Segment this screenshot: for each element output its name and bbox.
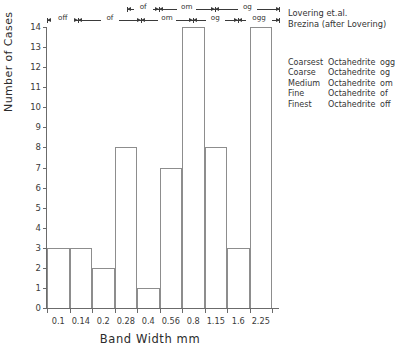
source-citations: Lovering et.al. Brezina (after Lovering) [288, 8, 386, 30]
histogram-figure: ofomog offofomogogg Lovering et.al. Brez… [0, 0, 410, 360]
x-tick-label: 1.6 [232, 317, 245, 326]
scale-segment-label: om [181, 3, 192, 11]
x-tick [137, 308, 138, 313]
scale-segment-label: off [58, 14, 67, 22]
x-tick [227, 308, 228, 313]
classification-type: Octahedrite [328, 68, 380, 78]
classification-grade: Coarse [288, 68, 328, 78]
y-tick-label: 14 [30, 23, 41, 32]
histogram-bar [92, 268, 115, 308]
classification-legend: CoarsestOctahedriteoggCoarseOctahedriteo… [288, 58, 402, 110]
x-tick-label: 1.15 [207, 317, 225, 326]
classification-grade: Medium [288, 79, 328, 89]
histogram-bar [250, 27, 273, 308]
histogram-bar [47, 248, 70, 308]
classification-type: Octahedrite [328, 100, 380, 110]
classification-grade: Fine [288, 89, 328, 99]
x-tick [182, 308, 183, 313]
x-tick-label: 0.28 [117, 317, 135, 326]
histogram-bar [227, 248, 250, 308]
scale-segment-label: of [106, 14, 113, 22]
histogram-bar [137, 288, 160, 308]
x-tick-label: 2.25 [252, 317, 270, 326]
source-line-1: Lovering et.al. [288, 8, 386, 19]
y-tick-label: 3 [36, 244, 41, 253]
x-tick [70, 308, 71, 313]
scale-segment-cap [47, 18, 48, 23]
classification-code: of [380, 89, 402, 99]
histogram-bar [205, 147, 228, 308]
x-tick-label: 0.8 [187, 317, 200, 326]
y-tick [43, 47, 47, 48]
y-tick [43, 208, 47, 209]
x-tick-label: 0.1 [52, 317, 65, 326]
y-tick [43, 67, 47, 68]
scale-segment-label: ogg [252, 14, 266, 22]
x-tick [115, 308, 116, 313]
y-tick-label: 12 [30, 63, 41, 72]
scale-segment-cap [78, 18, 79, 23]
y-tick [43, 188, 47, 189]
y-tick-label: 10 [30, 103, 41, 112]
scale-segment-cap [193, 18, 194, 23]
y-tick [43, 168, 47, 169]
y-tick-label: 2 [36, 264, 41, 273]
classification-code: og [380, 68, 402, 78]
classification-grade: Finest [288, 100, 328, 110]
y-tick-label: 7 [36, 164, 41, 173]
y-tick [43, 127, 47, 128]
y-tick [43, 87, 47, 88]
y-tick-label: 11 [30, 83, 41, 92]
scale-segment-label: of [140, 3, 147, 11]
scale-segment-cap [279, 7, 280, 12]
classification-row: FinestOctahedriteoff [288, 100, 402, 110]
y-tick-label: 4 [36, 224, 41, 233]
x-tick [205, 308, 206, 313]
scale-segment-cap [127, 7, 128, 12]
y-tick-label: 1 [36, 284, 41, 293]
x-tick [47, 308, 48, 313]
classification-code: off [380, 100, 402, 110]
classification-type: Octahedrite [328, 79, 380, 89]
source-line-2: Brezina (after Lovering) [288, 19, 386, 30]
classification-row: CoarsestOctahedriteogg [288, 58, 402, 68]
scale-segment-cap [159, 7, 160, 12]
scale-segment-label: og [243, 3, 252, 11]
y-tick-label: 6 [36, 184, 41, 193]
classification-type: Octahedrite [328, 58, 380, 68]
classification-code: om [380, 79, 402, 89]
classification-row: MediumOctahedriteom [288, 79, 402, 89]
histogram-bar [160, 168, 183, 309]
y-axis-title: Number of Cases [2, 12, 15, 112]
x-axis-title: Band Width mm [0, 332, 300, 346]
scale-segment-cap [141, 18, 142, 23]
x-tick-label: 0.4 [142, 317, 155, 326]
classification-row: FineOctahedriteof [288, 89, 402, 99]
histogram-bar [115, 147, 138, 308]
x-axis-line [46, 308, 279, 309]
x-tick [92, 308, 93, 313]
scale-segment-label: og [211, 14, 220, 22]
y-tick [43, 228, 47, 229]
x-tick-label: 0.14 [72, 317, 90, 326]
classification-type: Octahedrite [328, 89, 380, 99]
x-tick-label: 0.56 [162, 317, 180, 326]
scale-row-brezina: offofomogogg [47, 15, 280, 26]
classification-row: CoarseOctahedriteog [288, 68, 402, 78]
x-tick [160, 308, 161, 313]
scale-segment-cap [215, 7, 216, 12]
scale-segment-label: om [161, 14, 172, 22]
x-tick [272, 308, 273, 313]
scale-segment-cap [238, 18, 239, 23]
classification-grade: Coarsest [288, 58, 328, 68]
classification-scale-band: ofomog offofomogogg [47, 4, 280, 28]
y-tick-label: 13 [30, 43, 41, 52]
y-tick-label: 5 [36, 204, 41, 213]
y-tick-label: 0 [36, 304, 41, 313]
classification-code: ogg [380, 58, 402, 68]
y-tick [43, 147, 47, 148]
x-tick-label: 0.2 [97, 317, 110, 326]
y-tick-label: 8 [36, 143, 41, 152]
y-tick-label: 9 [36, 123, 41, 132]
histogram-bar [70, 248, 93, 308]
